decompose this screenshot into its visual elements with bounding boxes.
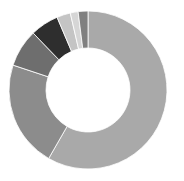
donut-chart bbox=[0, 0, 184, 181]
donut-slices bbox=[9, 11, 167, 169]
